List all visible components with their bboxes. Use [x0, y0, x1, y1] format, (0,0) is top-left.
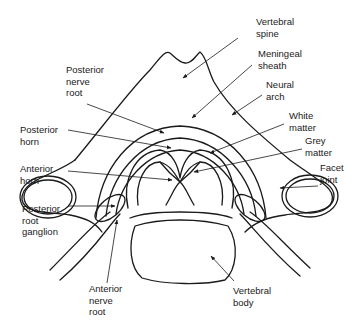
label-facet-joint: Facet joint [320, 162, 344, 185]
nerve-roots [50, 190, 310, 280]
spinal-cross-section-diagram: Vertebral spine Meningeal sheath Neural … [0, 0, 362, 328]
label-vertebral-body: Vertebral body [233, 285, 271, 308]
label-anterior-nerve-root: Anterior nerve root [89, 283, 122, 318]
vertebral-body [130, 212, 235, 284]
label-neural-arch: Neural arch [266, 79, 294, 102]
label-posterior-root-ganglion: Posterior root ganglion [22, 203, 60, 238]
label-anterior-horn: Anterior horn [20, 163, 53, 186]
label-vertebral-spine: Vertebral spine [256, 16, 294, 39]
label-posterior-horn: Posterior horn [20, 124, 58, 147]
diagram-artwork [0, 0, 362, 328]
label-meningeal-sheath: Meningeal sheath [258, 48, 302, 71]
spinal-cord [127, 150, 234, 208]
leader-lines [68, 38, 318, 283]
label-posterior-nerve-root: Posterior nerve root [66, 64, 104, 99]
label-grey-matter: Grey matter [305, 135, 332, 158]
label-white-matter: White matter [289, 110, 316, 133]
